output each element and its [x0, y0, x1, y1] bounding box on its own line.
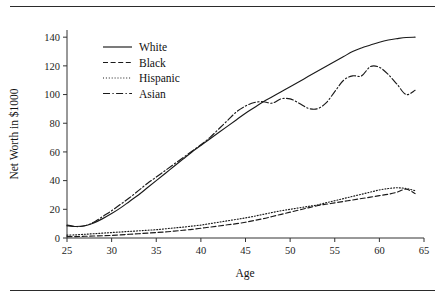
data-series-group — [67, 37, 415, 236]
legend-label-hispanic: Hispanic — [139, 72, 180, 85]
y-tick-label: 0 — [55, 233, 60, 244]
x-axis-ticks: 253035404550556065 — [62, 238, 430, 256]
y-tick-label: 140 — [44, 32, 60, 43]
chart-page: 020406080100120140 253035404550556065 Ag… — [0, 0, 445, 299]
top-horizontal-rule — [10, 6, 435, 7]
series-line-asian — [67, 66, 415, 227]
y-axis-ticks: 020406080100120140 — [44, 32, 67, 244]
x-tick-label: 40 — [196, 245, 207, 256]
x-tick-label: 55 — [330, 245, 341, 256]
x-tick-label: 65 — [419, 245, 430, 256]
bottom-horizontal-rule — [10, 290, 435, 291]
x-tick-label: 60 — [374, 245, 385, 256]
x-tick-label: 50 — [285, 245, 296, 256]
x-tick-label: 45 — [240, 245, 251, 256]
plot-area: 020406080100120140 253035404550556065 Ag… — [0, 8, 445, 290]
line-chart: 020406080100120140 253035404550556065 Ag… — [0, 8, 445, 290]
x-axis-title: Age — [235, 267, 254, 280]
legend-label-black: Black — [139, 57, 166, 69]
y-tick-label: 120 — [44, 61, 60, 72]
y-tick-label: 40 — [50, 175, 61, 186]
x-tick-label: 35 — [151, 245, 162, 256]
legend-label-white: White — [139, 41, 167, 53]
y-axis-title: Net Worth in $1000 — [8, 88, 20, 179]
y-tick-label: 100 — [44, 89, 60, 100]
series-line-black — [67, 189, 415, 236]
y-tick-label: 60 — [50, 147, 61, 158]
legend-label-asian: Asian — [139, 88, 166, 100]
y-tick-label: 20 — [50, 204, 61, 215]
series-line-hispanic — [67, 188, 415, 235]
x-tick-label: 25 — [62, 245, 73, 256]
x-tick-label: 30 — [106, 245, 117, 256]
chart-legend: WhiteBlackHispanicAsian — [103, 41, 180, 99]
y-tick-label: 80 — [50, 118, 61, 129]
cut-off-header-text — [14, 0, 432, 4]
axes-group — [67, 30, 424, 238]
